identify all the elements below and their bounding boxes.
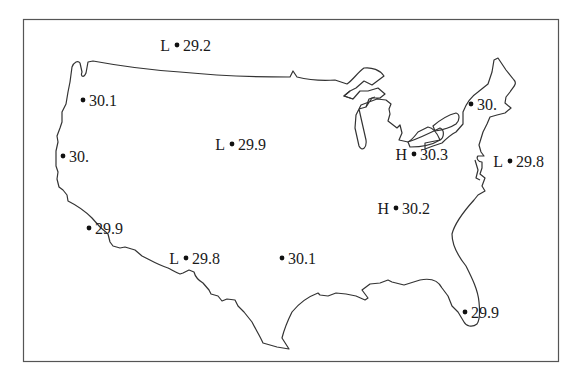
station-dot-icon xyxy=(175,43,180,48)
station-dot-icon xyxy=(508,159,513,164)
station-dot-icon xyxy=(81,98,86,103)
pressure-value: 30.1 xyxy=(89,92,117,109)
station-dot-icon xyxy=(463,310,468,315)
station-marker: L29.8 xyxy=(169,250,220,267)
station-dot-icon xyxy=(61,154,66,159)
station-marker: 29.9 xyxy=(463,304,499,321)
station-marker: L29.2 xyxy=(160,37,211,54)
station-marker: 30.1 xyxy=(280,250,316,267)
pressure-value: 30.1 xyxy=(288,250,316,267)
station-dot-icon xyxy=(87,226,92,231)
high-pressure-label: H xyxy=(395,146,407,163)
pressure-value: 29.9 xyxy=(471,304,499,321)
station-marker: H30.2 xyxy=(377,200,430,217)
pressure-value: 29.9 xyxy=(95,220,123,237)
low-pressure-label: L xyxy=(493,153,503,170)
station-marker: L29.9 xyxy=(215,136,266,153)
lake-superior xyxy=(344,91,353,99)
station-marker: 29.9 xyxy=(87,220,123,237)
station-dot-icon xyxy=(280,256,285,261)
pressure-value: 29.8 xyxy=(192,250,220,267)
low-pressure-label: L xyxy=(160,37,170,54)
pressure-value: 29.8 xyxy=(516,153,544,170)
station-dot-icon xyxy=(230,142,235,147)
low-pressure-label: L xyxy=(215,136,225,153)
lake-ontario xyxy=(433,113,459,131)
pressure-value: 30. xyxy=(477,96,497,113)
chesapeake-bay xyxy=(475,160,480,180)
weather-map: L29.230.1L29.930.30.H30.3L29.8H30.229.9L… xyxy=(0,0,579,375)
station-dot-icon xyxy=(469,102,474,107)
station-dot-icon xyxy=(184,256,189,261)
station-dot-icon xyxy=(412,152,417,157)
station-marker: 30. xyxy=(61,148,89,165)
station-marker: 30.1 xyxy=(81,92,117,109)
pressure-value: 30.3 xyxy=(420,146,448,163)
high-pressure-label: H xyxy=(377,200,389,217)
station-dot-icon xyxy=(394,206,399,211)
station-marker: 30. xyxy=(469,96,497,113)
us-outline xyxy=(56,58,515,349)
station-marker: H30.3 xyxy=(395,146,448,163)
low-pressure-label: L xyxy=(169,250,179,267)
pressure-value: 30. xyxy=(69,148,89,165)
station-marker: L29.8 xyxy=(493,153,544,170)
pressure-value: 29.2 xyxy=(183,37,211,54)
pressure-value: 29.9 xyxy=(238,136,266,153)
pressure-value: 30.2 xyxy=(402,200,430,217)
